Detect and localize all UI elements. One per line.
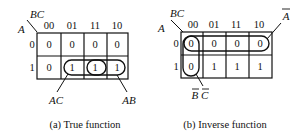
karnaugh-maps-figure: BC A 00 01 11 10 0 1 0 0 0 0 0 1 1 1 AC … bbox=[0, 0, 306, 140]
row-header: 1 bbox=[173, 61, 178, 72]
caption: (b) Inverse function bbox=[183, 119, 267, 131]
cell: 1 bbox=[234, 61, 239, 72]
row-variable-label: A bbox=[17, 23, 25, 35]
col-header: 11 bbox=[231, 19, 241, 30]
cell: 0 bbox=[234, 38, 239, 49]
kmap-inverse-function: BC A 00 01 11 10 0 1 0 0 0 0 0 1 1 1 A B bbox=[157, 7, 290, 131]
group-label-ab: AB bbox=[121, 94, 136, 106]
cell: 0 bbox=[46, 39, 51, 50]
col-header: 00 bbox=[188, 19, 199, 30]
group-label-a-bar: A bbox=[282, 10, 290, 22]
cell: 0 bbox=[69, 39, 74, 50]
group-label-ac: AC bbox=[48, 94, 64, 106]
corner-divider bbox=[27, 20, 37, 32]
col-header: 10 bbox=[254, 19, 265, 30]
cell: 0 bbox=[257, 38, 262, 49]
row-header: 0 bbox=[29, 39, 34, 50]
col-header: 10 bbox=[112, 20, 123, 31]
col-header: 11 bbox=[90, 20, 100, 31]
cell: 0 bbox=[92, 39, 97, 50]
group-label-bc-bar: B C bbox=[192, 89, 209, 101]
col-header: 01 bbox=[209, 19, 220, 30]
row-header: 1 bbox=[29, 62, 34, 73]
cell: 1 bbox=[211, 61, 216, 72]
row-variable-label: A bbox=[157, 22, 165, 34]
cell: 0 bbox=[188, 38, 193, 49]
col-header: 00 bbox=[44, 20, 55, 31]
cell: 1 bbox=[114, 62, 119, 73]
col-header: 01 bbox=[67, 20, 78, 31]
row-header: 0 bbox=[173, 38, 178, 49]
cell: 1 bbox=[257, 61, 262, 72]
cell: 0 bbox=[211, 38, 216, 49]
cell: 1 bbox=[92, 62, 97, 73]
col-variable-label: BC bbox=[30, 8, 45, 20]
corner-divider bbox=[171, 20, 183, 32]
cell: 0 bbox=[46, 62, 51, 73]
kmap-true-function: BC A 00 01 11 10 0 1 0 0 0 0 0 1 1 1 AC … bbox=[17, 8, 136, 131]
cell: 1 bbox=[69, 62, 74, 73]
col-variable-label: BC bbox=[170, 7, 185, 19]
cell: 0 bbox=[188, 61, 193, 72]
caption: (a) True function bbox=[49, 119, 121, 131]
cell: 0 bbox=[114, 39, 119, 50]
